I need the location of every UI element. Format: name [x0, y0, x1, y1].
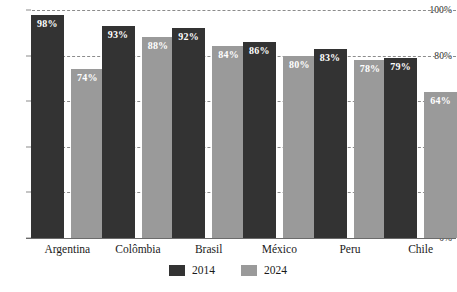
bar-value-label: 93% [102, 29, 135, 41]
bar-2014-brasil[interactable]: 92% [172, 28, 205, 238]
x-axis-baseline [26, 238, 456, 239]
bar-2024-méxico[interactable]: 80% [283, 56, 316, 238]
bar-value-label: 79% [384, 61, 417, 73]
y-axis-tick [26, 10, 31, 11]
bar-value-label: 98% [31, 18, 64, 30]
x-axis-category-label: Chile [385, 242, 456, 256]
bar-value-label: 80% [283, 59, 316, 71]
x-axis-category-label: Colômbia [103, 242, 174, 256]
bar-value-label: 64% [424, 95, 457, 107]
swatch-2014-icon [169, 265, 185, 276]
legend-item-2014[interactable]: 2014 [169, 264, 215, 276]
bar-2014-colômbia[interactable]: 93% [102, 26, 135, 238]
bar-2024-peru[interactable]: 78% [354, 60, 387, 238]
swatch-2024-icon [241, 265, 257, 276]
x-axis-category-label: México [244, 242, 315, 256]
x-axis-category-label: Brasil [173, 242, 244, 256]
gridline-100pct [32, 10, 456, 11]
bar-value-label: 88% [142, 40, 175, 52]
plot-area: 98%74%Argentina93%88%Colômbia92%84%Brasi… [32, 0, 456, 239]
bar-value-label: 78% [354, 63, 387, 75]
bar-value-label: 74% [71, 72, 104, 84]
x-axis-category-label: Argentina [32, 242, 103, 256]
bar-value-label: 86% [243, 45, 276, 57]
bar-value-label: 92% [172, 31, 205, 43]
bar-2014-chile[interactable]: 79% [384, 58, 417, 238]
bar-2024-chile[interactable]: 64% [424, 92, 457, 238]
bar-2024-colômbia[interactable]: 88% [142, 37, 175, 238]
bar-2024-argentina[interactable]: 74% [71, 69, 104, 238]
bar-value-label: 84% [212, 49, 245, 61]
legend-item-label: 2014 [192, 264, 215, 276]
bar-2014-méxico[interactable]: 86% [243, 42, 276, 238]
legend-item-2024[interactable]: 2024 [241, 264, 287, 276]
x-axis-category-label: Peru [315, 242, 386, 256]
bar-value-label: 83% [314, 52, 347, 64]
bar-2014-argentina[interactable]: 98% [31, 15, 64, 238]
chart-legend: 20142024 [0, 264, 456, 276]
bar-2024-brasil[interactable]: 84% [212, 46, 245, 238]
legend-item-label: 2024 [264, 264, 287, 276]
bar-2014-peru[interactable]: 83% [314, 49, 347, 238]
